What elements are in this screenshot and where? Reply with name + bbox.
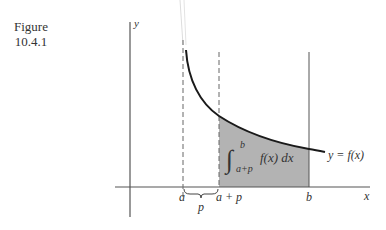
tick-label-a-plus-p: a + p [216,190,242,204]
integral-lower-limit: a+p [236,163,253,174]
brace-p [184,189,218,198]
integral-diagram: y = f(x) ∫ b a+p f(x) dx y x a a + p b p [0,0,386,230]
integrand: f(x) dx [260,150,294,165]
tick-label-a: a [179,190,185,204]
y-axis-label: y [133,17,139,29]
integral-upper-limit: b [240,139,245,150]
tick-label-b: b [306,190,312,204]
x-axis-label: x [363,189,370,203]
brace-label-p: p [197,200,204,214]
artifact-line [184,0,186,45]
curve-label: y = f(x) [327,148,364,162]
artifact-line [180,0,183,45]
